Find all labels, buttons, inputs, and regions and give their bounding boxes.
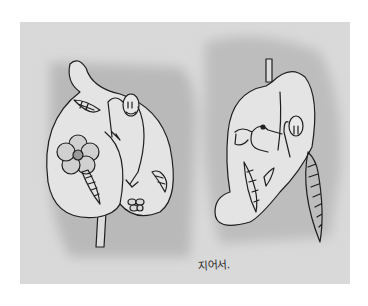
artwork-paper: 지어서. — [20, 22, 350, 284]
right-stem — [266, 59, 272, 82]
artwork-drawing — [20, 22, 350, 284]
bug-icon — [128, 199, 144, 211]
artist-signature: 지어서. — [198, 255, 230, 273]
